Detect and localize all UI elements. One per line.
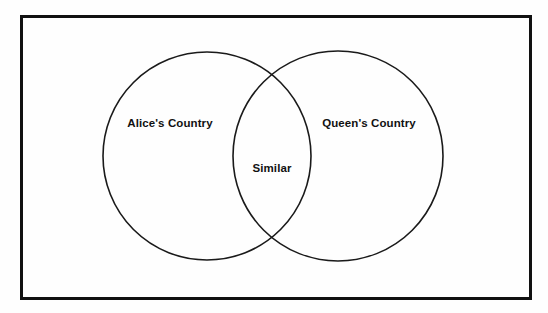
venn-label-right-set: Queen's Country (322, 118, 416, 130)
venn-circle-left (103, 52, 311, 260)
venn-circle-right (233, 51, 443, 261)
venn-label-left-set: Alice's Country (127, 118, 212, 130)
venn-label-intersection: Similar (252, 163, 291, 175)
venn-diagram-canvas (0, 0, 548, 313)
venn-diagram: Alice's Country Queen's Country Similar (0, 0, 548, 313)
outer-frame (22, 17, 531, 299)
